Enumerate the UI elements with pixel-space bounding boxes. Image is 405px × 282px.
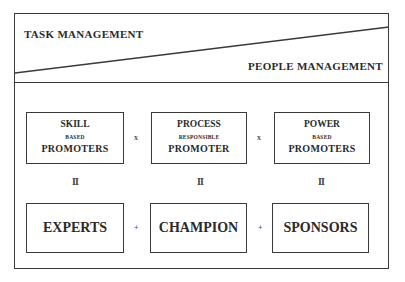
sponsors-box: SPONSORS xyxy=(272,203,369,253)
plus-operator: + xyxy=(258,223,263,232)
people-management-label: PEOPLE MANAGEMENT xyxy=(248,60,383,72)
skill-based-promoters-box: SKILL BASED PROMOTERS xyxy=(26,112,124,164)
header-divider xyxy=(14,82,389,83)
box-title: PROCESS xyxy=(152,119,246,129)
box-role: PROMOTERS xyxy=(275,143,369,154)
box-title: SKILL xyxy=(27,119,123,129)
box-role: PROMOTER xyxy=(152,143,246,154)
multiply-operator: x xyxy=(257,133,261,142)
process-responsible-promoter-box: PROCESS RESPONSIBLE PROMOTER xyxy=(151,112,247,164)
power-based-promoters-box: POWER BASED PROMOTERS xyxy=(274,112,370,164)
champion-box: CHAMPION xyxy=(150,203,247,253)
box-subtitle: BASED xyxy=(275,134,369,140)
box-subtitle: BASED xyxy=(27,134,123,140)
box-title: POWER xyxy=(275,119,369,129)
box-role: PROMOTERS xyxy=(27,143,123,154)
experts-box: EXPERTS xyxy=(26,203,124,253)
task-management-label: TASK MANAGEMENT xyxy=(24,28,144,40)
equals-sign: II xyxy=(197,176,203,187)
multiply-operator: x xyxy=(134,133,138,142)
box-subtitle: RESPONSIBLE xyxy=(152,134,246,140)
equals-sign: II xyxy=(318,176,324,187)
plus-operator: + xyxy=(134,223,139,232)
equals-sign: II xyxy=(72,176,78,187)
